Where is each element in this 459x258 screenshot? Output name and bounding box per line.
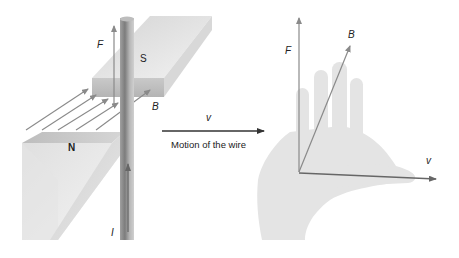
right-force-label: F <box>285 46 291 56</box>
south-magnet <box>92 16 212 97</box>
right-hand <box>257 62 415 240</box>
left-field-label: B <box>152 102 159 112</box>
left-force-label: F <box>97 40 103 50</box>
right-field-label: B <box>348 30 355 40</box>
diagram-canvas <box>0 0 459 258</box>
right-hand-rule-diagram: F S B N I v Motion of the wire F B v <box>0 0 459 258</box>
velocity-label: v <box>206 113 211 123</box>
current-label: I <box>111 228 114 238</box>
right-velocity-label: v <box>426 156 431 166</box>
wire <box>120 17 134 241</box>
motion-caption: Motion of the wire <box>171 140 246 150</box>
north-pole-label: N <box>68 143 75 153</box>
south-pole-label: S <box>140 54 147 64</box>
